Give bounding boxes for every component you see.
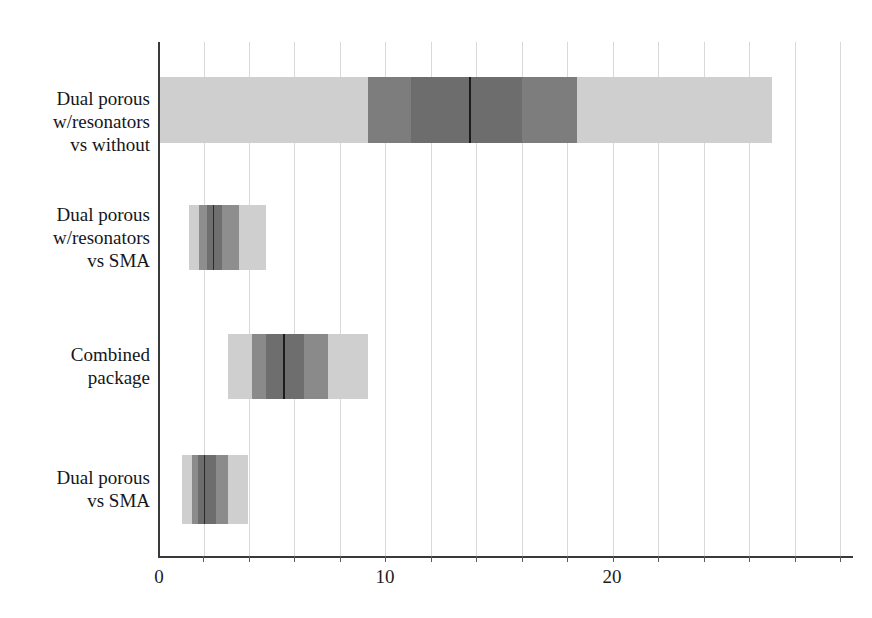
x-axis-tick [340,556,341,562]
bar-dual-porous-resonators-vs-without [159,77,772,143]
x-axis-tick [522,556,523,562]
category-label-dual-porous-resonators-vs-without: Dual porous w/resonators vs without [0,87,150,156]
gridline [795,42,796,557]
x-axis-tick [567,556,568,562]
category-label-dual-porous-resonators-vs-sma: Dual porous w/resonators vs SMA [0,203,150,272]
x-axis-tick [795,556,796,562]
x-axis-tick-label-10: 10 [376,566,395,588]
x-axis-tick [431,556,432,562]
x-axis-tick [294,556,295,562]
x-axis-tick [385,556,386,562]
bar-band-core [266,334,304,399]
y-axis-line [158,42,160,558]
x-axis-tick [249,556,250,562]
x-axis-tick [203,556,204,562]
bar-dual-porous-resonators-vs-sma [189,205,266,270]
x-axis-tick [658,556,659,562]
category-label-dual-porous-vs-sma: Dual porous vs SMA [0,466,150,512]
category-label-combined-package: Combined package [0,343,150,389]
bar-band-core [411,77,522,143]
bar-median-line [204,455,205,524]
plot-area [159,42,853,557]
bar-median-line [213,205,214,270]
category-axis-labels: Dual porous w/resonators vs without Dual… [0,0,150,618]
x-axis-tick-label-20: 20 [603,566,622,588]
bar-band-core [207,205,222,270]
x-axis-tick [476,556,477,562]
x-axis-tick [749,556,750,562]
x-axis-tick-label-0: 0 [154,566,164,588]
x-axis-tick [704,556,705,562]
x-axis-tick [840,556,841,562]
x-axis-tick [613,556,614,562]
bar-median-line [283,334,285,399]
bar-band-core [198,455,216,524]
bar-combined-package [228,334,368,399]
bar-dual-porous-vs-sma [182,455,248,524]
chart-figure: Dual porous w/resonators vs without Dual… [0,0,872,618]
gridline [840,42,841,557]
bar-median-line [469,77,471,143]
